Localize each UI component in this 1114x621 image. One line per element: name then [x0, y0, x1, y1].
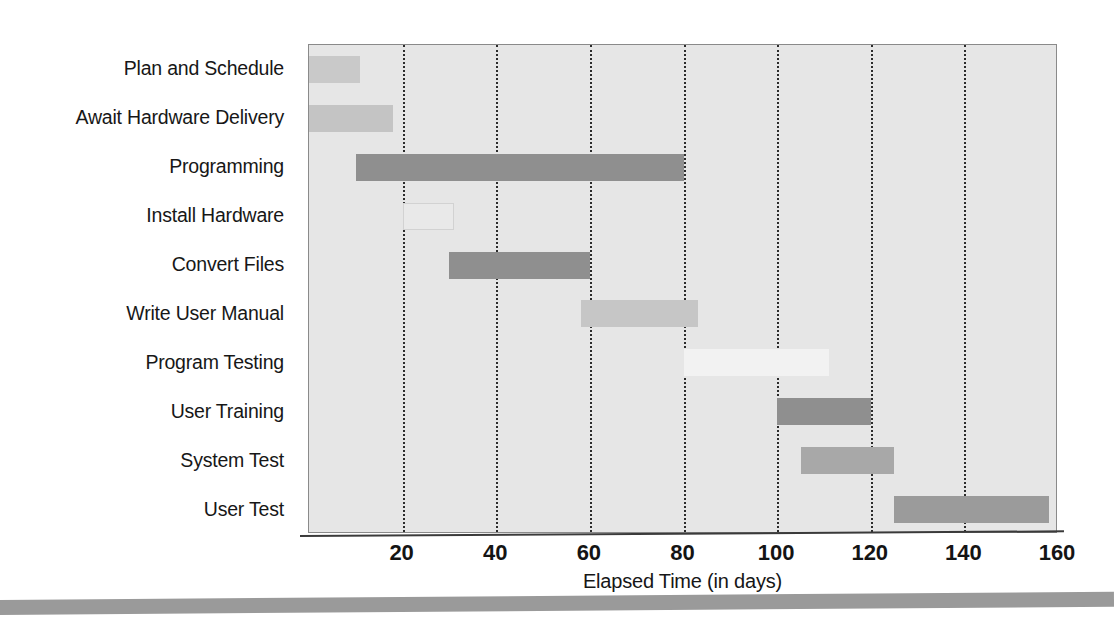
- gantt-bar: [449, 252, 589, 279]
- gantt-bar: [801, 447, 895, 474]
- y-axis-label: Write User Manual: [126, 302, 284, 324]
- gridline-60: [590, 45, 592, 532]
- y-axis-labels: Plan and ScheduleAwait Hardware Delivery…: [0, 44, 296, 533]
- y-axis-label: User Test: [204, 498, 284, 520]
- gantt-bar: [403, 203, 454, 230]
- y-axis-label: Await Hardware Delivery: [75, 106, 284, 128]
- x-axis-tick-label: 120: [840, 540, 900, 566]
- gantt-bar: [777, 398, 871, 425]
- y-axis-label: Program Testing: [145, 351, 284, 373]
- x-axis-tick-label: 160: [1027, 540, 1087, 566]
- x-axis-tick-label: 80: [653, 540, 713, 566]
- gantt-bar: [684, 349, 829, 376]
- y-axis-label: Install Hardware: [146, 204, 284, 226]
- page-footer-band: [0, 592, 1114, 615]
- gridline-100: [777, 45, 779, 532]
- gantt-bar: [581, 300, 698, 327]
- y-axis-label: Programming: [169, 155, 284, 177]
- gantt-bar: [894, 496, 1048, 523]
- gridline-20: [403, 45, 405, 532]
- x-axis-ticks: 20406080100120140160: [308, 540, 1057, 568]
- gantt-bar: [309, 56, 360, 83]
- x-axis-tick-label: 40: [465, 540, 525, 566]
- x-axis-tick-label: 100: [746, 540, 806, 566]
- x-axis-tick-label: 140: [933, 540, 993, 566]
- gridline-80: [684, 45, 686, 532]
- y-axis-label: Convert Files: [172, 253, 284, 275]
- y-axis-label: Plan and Schedule: [124, 57, 284, 79]
- gridline-140: [964, 45, 966, 532]
- x-axis-title: Elapsed Time (in days): [308, 570, 1057, 593]
- gantt-bar: [356, 154, 684, 181]
- y-axis-label: System Test: [180, 449, 284, 471]
- y-axis-label: User Training: [171, 400, 284, 422]
- x-axis-tick-label: 20: [372, 540, 432, 566]
- x-axis-tick-label: 60: [559, 540, 619, 566]
- gridline-40: [496, 45, 498, 532]
- gantt-bar: [309, 105, 393, 132]
- plot-area: [308, 44, 1057, 533]
